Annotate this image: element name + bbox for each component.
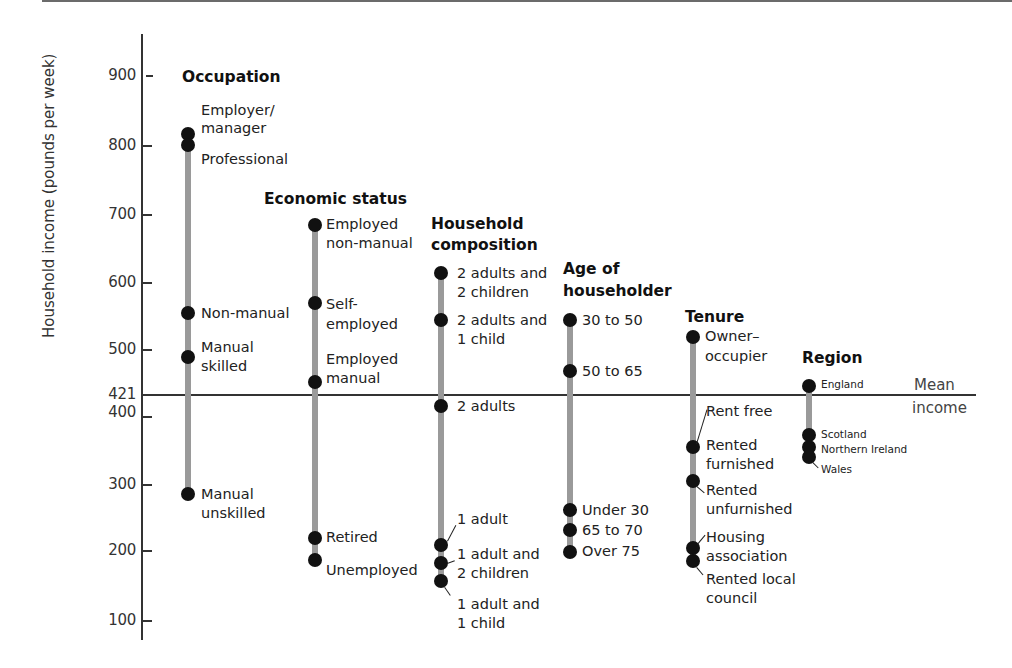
label-council: council xyxy=(706,590,757,607)
tick-label-421: 421 xyxy=(92,387,136,402)
label-65-to-70: 65 to 70 xyxy=(582,522,643,539)
label-owner: Owner– xyxy=(705,328,760,345)
group-title-occupation: Occupation xyxy=(182,68,281,87)
label-30-to-50: 30 to 50 xyxy=(582,312,643,329)
tick-label-200: 200 xyxy=(92,543,136,558)
label-unskilled: unskilled xyxy=(201,505,266,522)
dot-50-to-65 xyxy=(563,364,577,378)
group-title-age-2: householder xyxy=(563,282,672,301)
tick-label-300: 300 xyxy=(92,477,136,492)
dot-wales xyxy=(802,450,816,464)
label-2-adults: 2 adults xyxy=(457,398,515,415)
mean-label-line1: Mean xyxy=(914,376,955,394)
leader-1-adult xyxy=(447,525,456,541)
tick-label-500: 500 xyxy=(92,342,136,357)
label-rent-free: Rent free xyxy=(706,403,772,420)
leader-1-adult-2-children xyxy=(447,560,455,564)
tick-700 xyxy=(142,214,152,216)
label-2-children: 2 children xyxy=(457,284,529,301)
dot-1-adult-1-child xyxy=(434,574,448,588)
group-title-household-2: composition xyxy=(431,236,538,255)
label-unemployed: Unemployed xyxy=(326,562,418,579)
label-employer: Employer/ xyxy=(201,102,275,119)
label-2-children-2: 2 children xyxy=(457,565,529,582)
dot-2-adults-2-children xyxy=(434,266,448,280)
tick-600 xyxy=(142,282,152,284)
mean-income-line xyxy=(141,394,976,396)
label-non-manual-2: non-manual xyxy=(326,235,413,252)
label-housing: Housing xyxy=(706,529,765,546)
label-scotland: Scotland xyxy=(821,428,867,441)
label-england: England xyxy=(821,378,864,391)
group-title-age-1: Age of xyxy=(563,260,619,279)
dot-professional xyxy=(181,138,195,152)
dot-1-adult-2-children xyxy=(434,556,448,570)
label-unfurnished: unfurnished xyxy=(706,501,792,518)
dot-65-to-70 xyxy=(563,523,577,537)
tick-label-600: 600 xyxy=(92,275,136,290)
tick-label-900: 900 xyxy=(92,68,136,83)
age-bar xyxy=(567,320,573,552)
leader-housing-association xyxy=(697,535,705,545)
group-title-tenure: Tenure xyxy=(685,308,744,327)
leader-wales xyxy=(812,462,818,468)
label-skilled: skilled xyxy=(201,358,247,375)
label-wales: Wales xyxy=(821,463,852,476)
dot-rented-local-council xyxy=(686,554,700,568)
label-50-to-65: 50 to 65 xyxy=(582,363,643,380)
label-employed-3: Employed xyxy=(326,351,398,368)
label-rented-local: Rented local xyxy=(706,571,796,588)
label-professional: Professional xyxy=(201,151,288,168)
label-2-adults-and-2: 2 adults and xyxy=(457,312,547,329)
label-manager: manager xyxy=(201,120,266,137)
economic-status-bar xyxy=(312,225,318,560)
label-furnished: furnished xyxy=(706,456,774,473)
dot-employed-manual xyxy=(308,375,322,389)
label-manual: Manual xyxy=(201,339,254,356)
label-1-adult-and: 1 adult and xyxy=(457,546,540,563)
dot-under-30 xyxy=(563,503,577,517)
tick-900 xyxy=(146,75,153,77)
dot-retired xyxy=(308,531,322,545)
dot-1-adult xyxy=(434,538,448,552)
label-self: Self- xyxy=(326,296,358,313)
label-retired: Retired xyxy=(326,529,378,546)
dot-30-to-50 xyxy=(563,313,577,327)
group-title-economic-status: Economic status xyxy=(264,190,407,209)
tick-500 xyxy=(142,349,152,351)
label-association: association xyxy=(706,548,788,565)
dot-unemployed xyxy=(308,553,322,567)
tick-100 xyxy=(142,620,152,622)
tick-label-400: 400 xyxy=(92,405,136,420)
dot-employed-non-manual xyxy=(308,218,322,232)
label-non-manual: Non-manual xyxy=(201,305,289,322)
dot-2-adults-1-child xyxy=(434,313,448,327)
label-2-adults-and: 2 adults and xyxy=(457,265,547,282)
label-rented: Rented xyxy=(706,437,757,454)
label-employed-2: employed xyxy=(326,316,398,333)
group-title-household-1: Household xyxy=(431,215,524,234)
label-manual-3: manual xyxy=(326,370,380,387)
group-title-region: Region xyxy=(802,349,863,368)
tick-300 xyxy=(142,484,152,486)
label-over-75: Over 75 xyxy=(582,543,640,560)
dot-2-adults xyxy=(434,399,448,413)
dot-rented-furnished xyxy=(686,440,700,454)
label-1-adult-and-2: 1 adult and xyxy=(457,596,540,613)
dot-over-75 xyxy=(563,545,577,559)
label-employed: Employed xyxy=(326,216,398,233)
leader-rented-unfurnished xyxy=(696,486,704,493)
dot-non-manual xyxy=(181,306,195,320)
label-rented-2: Rented xyxy=(706,482,757,499)
label-northern-ireland: Northern Ireland xyxy=(821,443,907,456)
label-1-adult: 1 adult xyxy=(457,511,508,528)
tick-label-700: 700 xyxy=(92,207,136,222)
tick-800 xyxy=(142,145,152,147)
label-occupier: occupier xyxy=(705,348,767,365)
dot-owner-occupier xyxy=(686,330,700,344)
dot-self-employed xyxy=(308,296,322,310)
label-1-child: 1 child xyxy=(457,331,505,348)
dot-manual-unskilled xyxy=(181,487,195,501)
tick-400 xyxy=(142,416,152,418)
leader-1-adult-1-child xyxy=(444,587,451,596)
